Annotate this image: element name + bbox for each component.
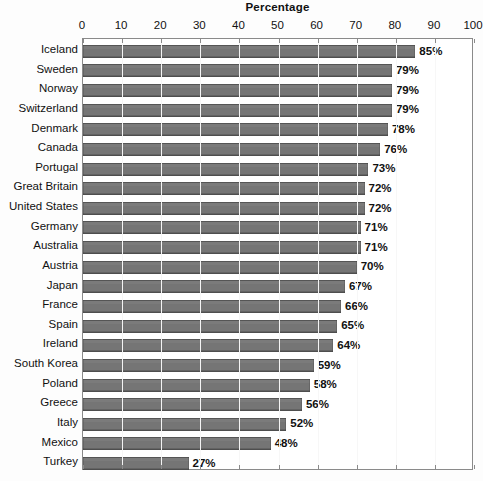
x-tick-label-20: 20 xyxy=(154,19,167,31)
bar-ireland xyxy=(83,339,333,352)
category-label-greece: Greece xyxy=(0,393,78,413)
bar-value-label: 52% xyxy=(290,416,313,430)
bar-row: 64% xyxy=(83,336,472,356)
category-label-portugal: Portugal xyxy=(0,158,78,178)
x-tick-mark-bottom-70 xyxy=(357,465,358,469)
bar-rows: 85%79%79%79%78%76%73%72%72%71%71%70%67%6… xyxy=(83,39,472,469)
bar-value-label: 85% xyxy=(419,44,442,58)
x-tick-mark-bottom-10 xyxy=(122,465,123,469)
y-axis-category-labels: IcelandSwedenNorwaySwitzerlandDenmarkCan… xyxy=(0,38,78,470)
bar-row: 71% xyxy=(83,218,472,238)
bar-switzerland xyxy=(83,104,392,117)
bar-france xyxy=(83,300,341,313)
x-tick-mark-top-10 xyxy=(122,39,123,43)
category-label-austria: Austria xyxy=(0,256,78,276)
bar-poland xyxy=(83,379,310,392)
x-tick-mark-bottom-100 xyxy=(474,465,475,469)
x-tick-mark-bottom-90 xyxy=(435,465,436,469)
x-tick-label-10: 10 xyxy=(115,19,128,31)
bar-value-label: 65% xyxy=(341,318,364,332)
bar-spain xyxy=(83,320,337,333)
bar-value-label: 79% xyxy=(396,102,419,116)
bar-value-label: 70% xyxy=(361,259,384,273)
bar-value-label: 79% xyxy=(396,83,419,97)
bar-row: 72% xyxy=(83,179,472,199)
category-label-spain: Spain xyxy=(0,315,78,335)
x-tick-mark-top-60 xyxy=(318,39,319,43)
category-label-great-britain: Great Britain xyxy=(0,177,78,197)
bar-value-label: 73% xyxy=(372,161,395,175)
category-label-iceland: Iceland xyxy=(0,40,78,60)
bar-value-label: 72% xyxy=(369,181,392,195)
x-tick-mark-bottom-20 xyxy=(161,465,162,469)
x-tick-label-70: 70 xyxy=(349,19,362,31)
bar-row: 79% xyxy=(83,81,472,101)
bar-greece xyxy=(83,398,302,411)
bar-value-label: 64% xyxy=(337,338,360,352)
bar-value-label: 48% xyxy=(275,436,298,450)
bar-row: 56% xyxy=(83,395,472,415)
bar-row: 52% xyxy=(83,414,472,434)
bar-value-label: 71% xyxy=(365,220,388,234)
x-tick-mark-bottom-0 xyxy=(83,465,84,469)
bar-row: 65% xyxy=(83,316,472,336)
bar-turkey xyxy=(83,457,189,470)
bar-germany xyxy=(83,221,361,234)
category-label-italy: Italy xyxy=(0,413,78,433)
x-tick-label-80: 80 xyxy=(388,19,401,31)
bar-row: 59% xyxy=(83,356,472,376)
x-tick-mark-top-80 xyxy=(396,39,397,43)
bar-value-label: 76% xyxy=(384,142,407,156)
bar-row: 67% xyxy=(83,277,472,297)
bar-sweden xyxy=(83,64,392,77)
category-label-switzerland: Switzerland xyxy=(0,99,78,119)
bar-value-label: 27% xyxy=(193,456,216,470)
category-label-south-korea: South Korea xyxy=(0,354,78,374)
bar-row: 58% xyxy=(83,375,472,395)
bar-chart: Percentage 0102030405060708090100 Icelan… xyxy=(0,0,483,481)
bar-row: 71% xyxy=(83,238,472,258)
x-tick-mark-bottom-30 xyxy=(200,465,201,469)
bar-value-label: 78% xyxy=(392,122,415,136)
bar-value-label: 79% xyxy=(396,63,419,77)
bar-value-label: 71% xyxy=(365,240,388,254)
category-label-denmark: Denmark xyxy=(0,119,78,139)
bar-norway xyxy=(83,84,392,97)
x-tick-mark-top-70 xyxy=(357,39,358,43)
category-label-turkey: Turkey xyxy=(0,452,78,472)
x-tick-mark-top-90 xyxy=(435,39,436,43)
category-label-mexico: Mexico xyxy=(0,433,78,453)
bar-value-label: 58% xyxy=(314,377,337,391)
bar-value-label: 56% xyxy=(306,397,329,411)
category-label-canada: Canada xyxy=(0,138,78,158)
category-label-united-states: United States xyxy=(0,197,78,217)
category-label-australia: Australia xyxy=(0,236,78,256)
x-tick-mark-bottom-60 xyxy=(318,465,319,469)
x-tick-mark-top-50 xyxy=(279,39,280,43)
category-label-norway: Norway xyxy=(0,79,78,99)
bar-portugal xyxy=(83,163,368,176)
x-tick-label-40: 40 xyxy=(232,19,245,31)
bar-value-label: 66% xyxy=(345,299,368,313)
x-axis-tick-labels: 0102030405060708090100 xyxy=(0,19,483,35)
bar-row: 79% xyxy=(83,100,472,120)
bar-value-label: 72% xyxy=(369,201,392,215)
bar-mexico xyxy=(83,437,271,450)
bar-row: 27% xyxy=(83,454,472,474)
bar-italy xyxy=(83,418,286,431)
category-label-france: France xyxy=(0,295,78,315)
x-tick-label-50: 50 xyxy=(271,19,284,31)
category-label-germany: Germany xyxy=(0,217,78,237)
bar-denmark xyxy=(83,123,388,136)
x-tick-mark-bottom-80 xyxy=(396,465,397,469)
x-tick-mark-top-40 xyxy=(239,39,240,43)
x-tick-label-30: 30 xyxy=(193,19,206,31)
bar-row: 79% xyxy=(83,61,472,81)
bar-row: 76% xyxy=(83,140,472,160)
bar-value-label: 67% xyxy=(349,279,372,293)
x-tick-mark-bottom-40 xyxy=(239,465,240,469)
x-tick-mark-top-100 xyxy=(474,39,475,43)
bar-iceland xyxy=(83,45,415,58)
bar-value-label: 59% xyxy=(318,358,341,372)
category-label-sweden: Sweden xyxy=(0,60,78,80)
